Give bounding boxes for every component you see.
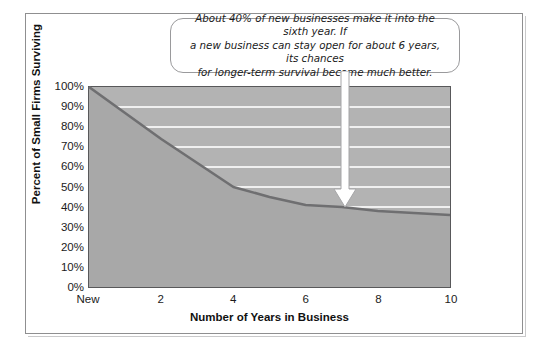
plot-area	[88, 86, 451, 288]
annotation-text: About 40% of new businesses make it into…	[183, 12, 447, 79]
y-tick-label: 30%	[30, 221, 84, 233]
x-tick-label: 8	[375, 293, 381, 305]
y-tick-label: 80%	[30, 120, 84, 132]
figure-container: Percent of Small Firms Surviving 100% 90…	[0, 0, 548, 348]
y-tick-label: 0%	[30, 281, 84, 293]
x-axis-title: Number of Years in Business	[88, 311, 451, 323]
x-tick-label: New	[76, 293, 99, 305]
annotation-arrow-icon	[330, 71, 360, 209]
y-tick-label: 90%	[30, 100, 84, 112]
x-tick-label: 2	[157, 293, 163, 305]
y-tick-label: 70%	[30, 140, 84, 152]
x-tick-label: 6	[303, 293, 309, 305]
y-tick-label: 60%	[30, 160, 84, 172]
x-tick-label: 10	[445, 293, 458, 305]
chart-svg	[88, 86, 451, 288]
annotation-callout: About 40% of new businesses make it into…	[170, 18, 460, 73]
y-tick-label: 20%	[30, 241, 84, 253]
y-axis-ticks: 100% 90% 80% 70% 60% 50% 40% 30% 20% 10%…	[28, 86, 84, 288]
y-tick-label: 100%	[30, 80, 84, 92]
y-tick-label: 40%	[30, 201, 84, 213]
y-tick-label: 10%	[30, 261, 84, 273]
x-tick-label: 4	[230, 293, 236, 305]
x-axis-ticks: New 2 4 6 8 10	[88, 293, 451, 309]
y-tick-label: 50%	[30, 181, 84, 193]
